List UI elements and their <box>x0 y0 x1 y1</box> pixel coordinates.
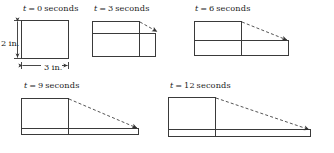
spread-arrow-t12 <box>216 98 309 130</box>
panel-shape-t6 <box>195 22 289 56</box>
panel-shape-t3 <box>93 22 158 57</box>
spread-arrow-t6 <box>242 22 287 40</box>
upper-block-t9 <box>22 99 69 129</box>
panel-shape-t12 <box>169 98 311 137</box>
figure-vector-layer <box>0 0 334 153</box>
spread-arrow-t3 <box>140 22 157 32</box>
spread-slab-t3 <box>93 34 156 57</box>
rectangle-t0 <box>22 21 69 59</box>
panel-shape-t9 <box>22 99 139 135</box>
upper-block-t6 <box>195 22 242 41</box>
deformation-figure: t = 0 seconds t = 3 seconds t = 6 second… <box>0 0 334 153</box>
spread-arrow-t9 <box>69 99 137 128</box>
upper-block-t12 <box>169 98 216 130</box>
upper-block-t3 <box>93 22 140 34</box>
spread-slab-t9 <box>22 129 139 135</box>
spread-slab-t12 <box>169 130 311 137</box>
panel-shape-t0 <box>14 21 69 70</box>
